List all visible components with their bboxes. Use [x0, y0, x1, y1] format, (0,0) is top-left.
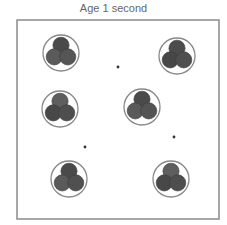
cluster-ball — [60, 49, 76, 65]
cluster-ball — [170, 175, 186, 191]
cluster-ball — [59, 105, 75, 121]
particle-cluster — [124, 89, 160, 125]
particle-clusters — [42, 35, 195, 197]
particle-cluster — [42, 91, 78, 127]
free-particle-dot — [84, 146, 87, 149]
simulation-canvas — [0, 0, 227, 225]
particle-cluster — [153, 161, 189, 197]
free-particle-dot — [173, 136, 176, 139]
free-particle-dot — [117, 66, 120, 69]
particle-cluster — [159, 38, 195, 74]
particle-cluster — [43, 35, 79, 71]
cluster-ball — [141, 103, 157, 119]
particle-cluster — [51, 161, 87, 197]
cluster-ball — [176, 52, 192, 68]
cluster-ball — [68, 175, 84, 191]
